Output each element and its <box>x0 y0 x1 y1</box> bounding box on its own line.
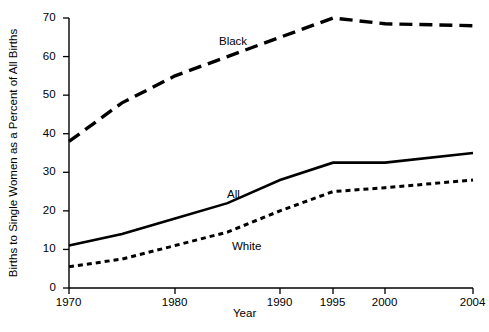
y-axis-tick-label: 60 <box>43 51 56 63</box>
y-axis-tick-label: 10 <box>43 243 56 255</box>
x-axis-tick-label: 1980 <box>162 297 188 309</box>
series-line-white <box>69 180 473 267</box>
series-label-white: White <box>232 241 261 253</box>
y-axis-tick-label: 20 <box>43 205 56 217</box>
y-axis-tick-label: 70 <box>43 12 56 24</box>
y-axis-tick-label: 50 <box>43 89 56 101</box>
x-axis-tick-label: 2000 <box>372 297 398 309</box>
chart-axes <box>63 18 473 294</box>
y-axis-title: Births to Single Women as a Percent of A… <box>7 29 19 278</box>
x-axis-ticks <box>69 288 473 294</box>
x-axis-title: Year <box>233 308 256 320</box>
y-axis-tick-label: 40 <box>43 128 56 140</box>
series-line-all <box>69 153 473 246</box>
x-axis-tick-label: 1970 <box>56 297 82 309</box>
chart-figure: Births to Single Women as a Percent of A… <box>0 0 489 332</box>
x-axis-tick-label: 1990 <box>267 297 293 309</box>
x-axis-tick-label: 2004 <box>460 297 486 309</box>
series-label-black: Black <box>219 36 247 48</box>
y-axis-tick-label: 30 <box>43 166 56 178</box>
chart-series-group <box>69 18 473 267</box>
x-axis-tick-label: 1995 <box>320 297 346 309</box>
chart-plot-svg: Births to Single Women as a Percent of A… <box>0 0 489 332</box>
series-line-black <box>69 18 473 141</box>
series-label-all: All <box>227 189 240 201</box>
y-axis-tick-label: 0 <box>49 282 55 294</box>
y-axis-ticks <box>63 18 69 288</box>
